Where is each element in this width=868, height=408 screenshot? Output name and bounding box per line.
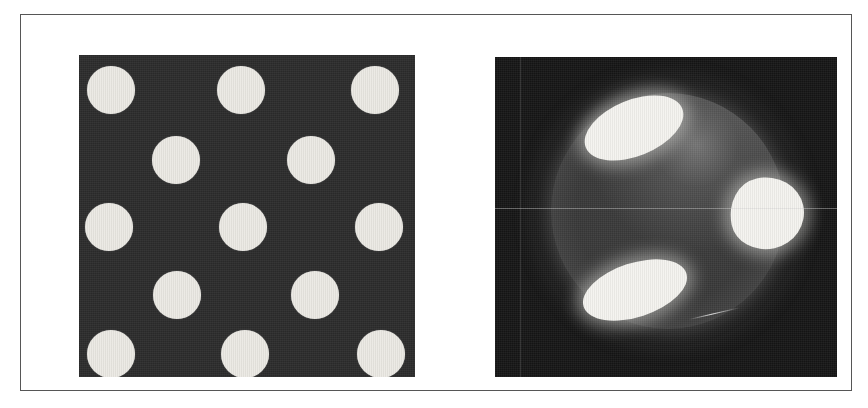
pattern-dot <box>291 271 339 319</box>
pattern-dot <box>221 330 269 377</box>
pattern-dot <box>87 66 135 114</box>
figure-root <box>0 0 868 408</box>
pattern-dot <box>355 203 403 251</box>
horizontal-scan-line-artifact <box>495 208 837 209</box>
pattern-dot <box>217 66 265 114</box>
pattern-dot <box>351 66 399 114</box>
figure-frame-border <box>20 14 852 391</box>
pattern-dot <box>287 136 335 184</box>
pattern-dot <box>152 136 200 184</box>
pattern-dot <box>219 203 267 251</box>
pattern-dot <box>153 271 201 319</box>
vertical-scan-line-artifact <box>520 57 521 377</box>
pattern-dot <box>357 330 405 377</box>
dot-pattern-panel <box>79 55 415 377</box>
sphere-render-panel <box>495 57 837 377</box>
pattern-dot <box>85 203 133 251</box>
pattern-dot <box>87 330 135 377</box>
